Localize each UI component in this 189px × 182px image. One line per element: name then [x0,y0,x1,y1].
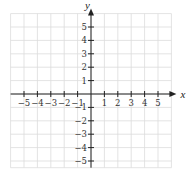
x-tick-label: 2 [115,98,120,108]
y-tick-label: 4 [82,35,87,45]
x-tick-label: 1 [102,98,107,108]
x-tick-label: 4 [142,98,147,108]
x-tick-label: −5 [18,98,31,108]
y-tick-label: −5 [74,156,87,166]
y-tick-label: 2 [82,62,87,72]
y-axis-label: y [84,0,90,11]
y-tick-label: −1 [74,102,87,112]
coordinate-plane: −5−4−3−2−11234554321−1−2−3−4−5 x y [0,0,189,182]
y-tick-label: 3 [82,49,87,59]
x-tick-label: 5 [155,98,160,108]
x-axis-arrow-icon [169,91,176,97]
x-tick-label: −4 [31,98,44,108]
y-tick-label: 1 [82,76,87,86]
y-tick-label: −2 [74,116,87,126]
x-tick-label: −3 [45,98,58,108]
y-tick-label: −4 [74,143,87,153]
x-tick-label: −2 [58,98,71,108]
axes [11,9,177,168]
y-tick-label: −3 [74,129,87,139]
x-axis-label: x [179,88,185,100]
x-tick-label: 3 [128,98,133,108]
y-tick-label: 5 [82,22,87,32]
